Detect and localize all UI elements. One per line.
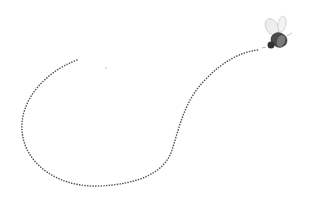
illustration (0, 0, 313, 206)
bee-head-icon (268, 42, 275, 49)
dotted-flight-path (22, 50, 258, 186)
stray-dot (105, 67, 107, 69)
bee-wing-icon (277, 15, 288, 32)
bee-icon (262, 15, 292, 50)
